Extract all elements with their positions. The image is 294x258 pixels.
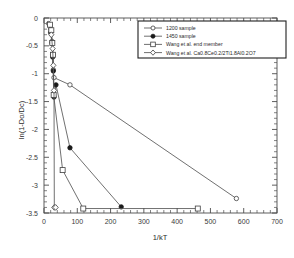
- y-tick-label: -2.5: [26, 154, 38, 161]
- x-axis-title: 1/kT: [153, 233, 168, 242]
- data-point-marker: [234, 196, 238, 200]
- y-tick-label: -1.5: [26, 98, 38, 105]
- y-tick-label: -0.5: [26, 42, 38, 49]
- series-line: [51, 32, 122, 206]
- plot-area: 0100200300400500600700 0-0.5-1-1.5-2-2.5…: [0, 0, 294, 258]
- y-axis-tick-labels: 0-0.5-1-1.5-2-2.5-3-3.5: [26, 15, 38, 217]
- data-point-marker: [47, 22, 52, 27]
- chart-figure: 0100200300400500600700 0-0.5-1-1.5-2-2.5…: [0, 0, 294, 258]
- series-line: [51, 35, 55, 208]
- data-point-marker: [151, 26, 155, 30]
- data-point-marker: [50, 46, 55, 52]
- data-point-marker: [68, 83, 72, 87]
- x-tick-label: 200: [105, 218, 117, 225]
- data-point-marker: [81, 206, 86, 211]
- x-tick-label: 600: [238, 218, 250, 225]
- legend-label: 1450 sample: [166, 33, 196, 39]
- data-point-marker: [60, 168, 65, 173]
- y-tick-label: 0: [34, 15, 38, 22]
- y-axis-title: ln(1-Do/Dc): [17, 100, 26, 139]
- x-tick-label: 400: [171, 218, 183, 225]
- data-point-marker: [151, 42, 156, 47]
- legend-label: 1200 sample: [166, 25, 196, 31]
- y-tick-label: -1: [32, 70, 38, 77]
- y-tick-label: -3.5: [26, 210, 38, 217]
- x-tick-label: 700: [271, 218, 283, 225]
- data-point-marker: [51, 62, 56, 68]
- x-axis-tick-labels: 0100200300400500600700: [42, 218, 283, 225]
- x-tick-label: 0: [42, 218, 46, 225]
- legend-label: Wang et al. Ca0.8Ce0.2/2Ti1.8Al0.2O7: [166, 50, 256, 56]
- x-tick-label: 500: [205, 218, 217, 225]
- data-point-marker: [68, 146, 72, 150]
- chart-legend: 1200 sample1450 sampleWang et al. end me…: [138, 21, 286, 58]
- y-tick-label: -2: [32, 126, 38, 133]
- legend-label: Wang et al. end member: [166, 41, 223, 47]
- x-tick-label: 300: [138, 218, 150, 225]
- data-point-marker: [54, 83, 58, 87]
- data-series: [48, 30, 123, 209]
- data-point-marker: [195, 206, 200, 211]
- x-tick-label: 100: [71, 218, 83, 225]
- y-tick-label: -3: [32, 182, 38, 189]
- data-point-marker: [151, 34, 155, 38]
